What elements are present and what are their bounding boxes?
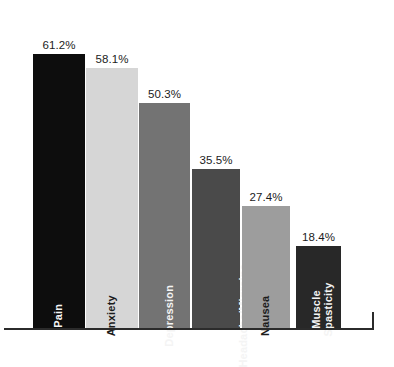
bar-category-label-line: Muscle (310, 290, 322, 329)
bar-category-label: Pain (33, 310, 85, 322)
bar-category-label: Anxiety (86, 310, 138, 322)
bar-group: Nausea27.4% (242, 206, 290, 328)
bar-value-label: 35.5% (192, 154, 240, 166)
bar-group: Pain61.2% (33, 54, 85, 328)
bar-category-label: MuscleSpasticity (296, 298, 341, 321)
bar-group: Anxiety58.1% (86, 68, 138, 328)
bar-category-label: Headache/Migraine (192, 310, 240, 322)
bar[interactable]: Pain (33, 54, 85, 328)
x-axis-end-tick (372, 312, 374, 330)
bar-group: Headache/Migraine35.5% (192, 169, 240, 328)
bar[interactable]: Anxiety (86, 68, 138, 328)
bar-value-label: 61.2% (33, 39, 85, 51)
bar-category-label: Nausea (242, 310, 290, 322)
bar-category-label-line: Depression (163, 284, 175, 346)
bar-category-label: Depression (139, 310, 190, 322)
bar-value-label: 50.3% (139, 88, 190, 100)
bar-group: MuscleSpasticity18.4% (296, 246, 341, 328)
bar[interactable]: Headache/Migraine (192, 169, 240, 328)
bar[interactable]: Depression (139, 103, 190, 328)
bar-category-label-text: Depression (164, 284, 176, 346)
bar-category-label-text: Pain (53, 303, 65, 327)
bar-value-label: 27.4% (242, 191, 290, 203)
x-axis-baseline (4, 328, 374, 330)
bar-value-label: 18.4% (296, 231, 341, 243)
bar-group: Depression50.3% (139, 103, 190, 328)
bar-category-label-line: Pain (52, 303, 64, 327)
bar-value-label: 58.1% (86, 53, 138, 65)
bar[interactable]: Nausea (242, 206, 290, 328)
bar[interactable]: MuscleSpasticity (296, 246, 341, 328)
